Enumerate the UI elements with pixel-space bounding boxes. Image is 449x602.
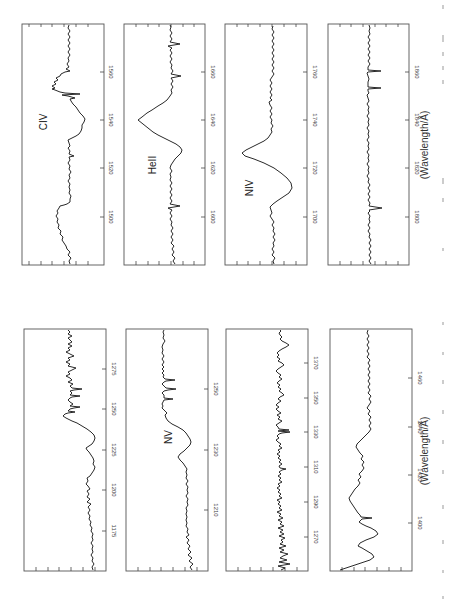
tick-label: 1460 [417,371,423,385]
tick-label: 1760 [312,65,318,79]
tick-label: 1600 [210,210,216,224]
spectra-figure: 1560 1540 1520 1500 CIV [0,0,449,602]
wavelength-ticks: 1370 1350 1330 1310 1290 1270 [304,356,319,544]
tick-label: 1400 [417,516,423,530]
spectrum-line [138,25,182,264]
panel-frame [124,24,205,265]
panel-frame [226,329,308,571]
spectrum-line [367,25,382,264]
panel-1175-1275: 1275 1250 1225 1200 1175 [24,329,117,571]
line-label-heii: HeII [147,156,158,174]
tick-label: 1660 [210,65,216,79]
tick-label: 1560 [108,65,114,79]
panel-nv: 1250 1230 1210 NV [126,329,219,571]
tick-label: 1350 [313,391,319,405]
tick-label: 1200 [111,483,117,497]
tick-label: 1720 [312,161,318,175]
wavelength-ticks: 1760 1740 1720 1700 [303,65,318,224]
flux-ticks [36,567,95,571]
tick-label: 1290 [313,495,319,509]
wavelength-ticks: 1560 1540 1520 1500 [100,65,114,224]
tick-label: 1270 [313,530,319,544]
wavelength-ticks: 1660 1640 1620 1600 [201,65,216,224]
tick-label: 1175 [111,525,117,539]
flux-ticks [342,567,401,571]
tick-label: 1210 [213,503,219,517]
tick-label: 1250 [111,402,117,416]
spectrum-line [162,330,193,570]
tick-label: 1310 [313,460,319,474]
tick-label: 1520 [108,161,114,175]
tick-label: 1540 [108,113,114,127]
tick-label: 1275 [111,362,117,376]
spectrum-line [52,25,85,264]
panel-1800-1860: 1860 1840 1820 1800 [328,24,420,265]
flux-ticks [138,567,197,571]
tick-label: 1230 [213,443,219,457]
spectrum-line [276,330,290,570]
panel-niv: 1760 1740 1720 1700 NIV [225,24,318,265]
wavelength-ticks: 1275 1250 1225 1200 1175 [102,362,117,538]
wavelength-ticks: 1860 1840 1820 1800 [405,65,420,224]
tick-label: 1640 [210,113,216,127]
panel-frame [126,329,208,571]
flux-ticks [136,24,194,265]
tick-label: 1500 [108,210,114,224]
panel-frame [24,329,106,571]
tick-label: 1700 [312,210,318,224]
line-label-nv: NV [163,430,174,444]
tick-label: 1860 [414,65,420,79]
flux-ticks [237,24,296,265]
flux-ticks [238,567,297,571]
panel-frame [330,329,412,571]
tick-label: 1330 [313,425,319,439]
spectrum-line [242,26,292,264]
tick-label: 1740 [312,113,318,127]
panel-frame [22,24,104,265]
wavelength-ticks: 1250 1230 1210 [204,382,219,517]
tick-label: 1800 [414,210,420,224]
tick-label: 1250 [213,382,219,396]
spectrum-line [63,330,95,570]
tick-label: 1370 [313,356,319,370]
tick-label: 1225 [111,443,117,457]
axis-title-top-group: (Wavelength/Å) [418,111,430,180]
panel-1270-1370: 1370 1350 1330 1310 1290 1270 [226,329,319,571]
axis-title-bottom-group: (Wavelength/Å) [418,417,430,486]
panel-heii: 1660 1640 1620 1600 HeII [124,24,216,265]
panel-frame [225,24,307,265]
tick-label: 1620 [210,161,216,175]
line-label-niv: NIV [244,179,255,196]
spectrum-line [340,330,378,570]
panel-1400-1460: 1460 1440 1420 1400 [330,329,423,571]
panel-civ: 1560 1540 1520 1500 CIV [22,24,114,265]
line-label-civ: CIV [38,113,49,130]
